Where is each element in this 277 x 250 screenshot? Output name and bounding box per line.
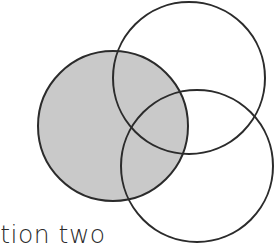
venn-diagram-figure: ction two bbox=[0, 0, 277, 250]
venn-diagram-canvas bbox=[0, 0, 277, 250]
caption-text: ction two bbox=[0, 222, 106, 247]
